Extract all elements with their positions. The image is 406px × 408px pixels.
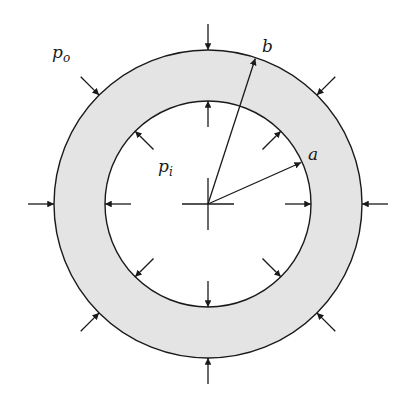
outer-pressure-arrow-icon	[81, 313, 99, 331]
inner-pressure-arrow-icon	[262, 258, 280, 276]
outer-pressure-arrow-icon	[317, 313, 335, 331]
radius-a-arrow	[208, 163, 301, 204]
diagram-canvas: po pi b a	[0, 0, 406, 408]
outer-pressure-arrow-icon	[317, 77, 335, 95]
label-inner-pressure: pi	[158, 156, 173, 179]
inner-pressure-arrow-icon	[135, 258, 153, 276]
cylinder-diagram: po pi b a	[0, 0, 406, 408]
label-inner-radius-a: a	[308, 144, 318, 164]
label-outer-pressure: po	[52, 42, 70, 65]
inner-pressure-arrow-icon	[262, 131, 280, 149]
inner-pressure-arrow-icon	[135, 131, 153, 149]
outer-pressure-arrow-icon	[81, 77, 99, 95]
label-outer-radius-b: b	[262, 36, 273, 56]
